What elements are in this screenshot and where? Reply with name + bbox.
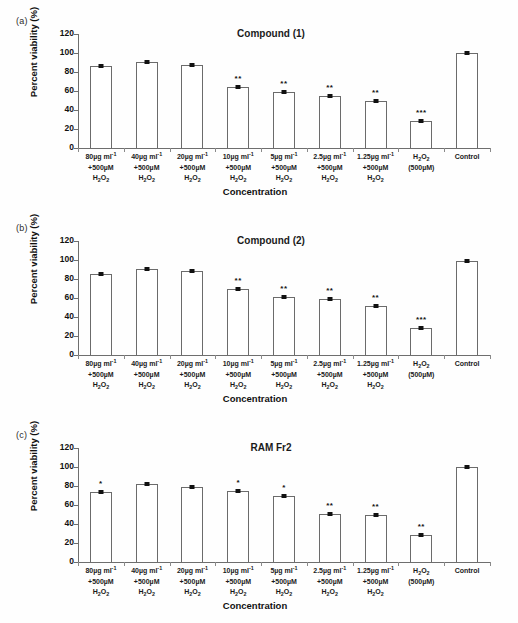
bar[interactable] [181, 271, 203, 355]
bar-slot[interactable] [78, 241, 124, 355]
bar[interactable] [227, 87, 249, 148]
error-bar-marker [373, 304, 378, 308]
error-bar-marker [98, 64, 103, 68]
y-tick-label: 120 [60, 235, 74, 245]
bar-slot[interactable] [124, 34, 170, 148]
bar[interactable] [410, 121, 432, 148]
bar-slot[interactable] [444, 34, 490, 148]
bar[interactable] [319, 514, 341, 562]
bar-slot[interactable]: ** [307, 34, 353, 148]
bar-slot[interactable]: ** [353, 448, 399, 562]
bar[interactable] [136, 62, 158, 148]
bar[interactable] [319, 299, 341, 355]
x-axis-label: Concentration [150, 600, 360, 611]
bar-slot[interactable]: ** [398, 448, 444, 562]
bar-series: ********* [78, 448, 490, 562]
significance-marker: ** [280, 80, 287, 88]
bar[interactable] [456, 467, 478, 562]
error-bar-marker [327, 512, 332, 516]
y-tick-label: 40 [65, 104, 74, 114]
bar[interactable] [273, 297, 295, 355]
bar-slot[interactable]: * [78, 448, 124, 562]
significance-marker: ** [372, 503, 379, 511]
x-axis-line [78, 355, 490, 356]
bar[interactable] [136, 269, 158, 355]
error-bar-marker [144, 267, 149, 271]
y-tick-label: 20 [65, 537, 74, 547]
bar[interactable] [90, 274, 112, 355]
bar-slot[interactable] [124, 241, 170, 355]
x-category-label: 10µg ml-1+500µMH2O2 [215, 566, 261, 598]
bar[interactable] [410, 328, 432, 355]
y-tick-label: 80 [65, 66, 74, 76]
bar-slot[interactable]: *** [398, 241, 444, 355]
error-bar-marker [281, 295, 286, 299]
bar-slot[interactable]: ** [353, 241, 399, 355]
error-bar-marker [236, 489, 241, 493]
bar[interactable] [365, 306, 387, 355]
bar[interactable] [410, 535, 432, 562]
bar[interactable] [181, 487, 203, 562]
bar-slot[interactable]: ** [261, 34, 307, 148]
bar-slot[interactable] [444, 448, 490, 562]
x-category-labels: 80µg ml-1+500µMH2O240µg ml-1+500µMH2O220… [78, 359, 490, 393]
bar[interactable] [456, 53, 478, 148]
bar-slot[interactable]: ** [215, 241, 261, 355]
bar[interactable] [181, 65, 203, 148]
y-tick-label: 100 [60, 461, 74, 471]
bar[interactable] [227, 289, 249, 355]
error-bar-marker [465, 465, 470, 469]
bar[interactable] [136, 484, 158, 562]
bar[interactable] [90, 492, 112, 562]
error-bar-marker [281, 90, 286, 94]
bar[interactable] [456, 261, 478, 355]
x-axis-line [78, 148, 490, 149]
bar-slot[interactable]: ** [215, 34, 261, 148]
bar-slot[interactable]: * [261, 448, 307, 562]
x-category-label: 10µg ml-1+500µMH2O2 [215, 152, 261, 184]
x-category-label: Control [444, 359, 490, 391]
bar-slot[interactable]: * [215, 448, 261, 562]
x-tick [490, 148, 491, 152]
figure-container: (a)Compound (1)Percent viability (%)Conc… [0, 0, 518, 623]
x-tick [490, 355, 491, 359]
error-bar-marker [144, 482, 149, 486]
error-bar-marker [327, 297, 332, 301]
x-category-labels: 80µg ml-1+500µMH2O240µg ml-1+500µMH2O220… [78, 152, 490, 186]
bar[interactable] [273, 92, 295, 148]
bar-slot[interactable]: ** [307, 448, 353, 562]
bar-slot[interactable] [170, 34, 216, 148]
bar-slot[interactable]: ** [353, 34, 399, 148]
x-category-label: 40µg ml-1+500µMH2O2 [124, 359, 170, 391]
significance-marker: *** [416, 316, 427, 324]
bar-slot[interactable]: ** [261, 241, 307, 355]
bar-slot[interactable]: *** [398, 34, 444, 148]
bar[interactable] [273, 496, 295, 562]
error-bar-marker [190, 269, 195, 273]
panel-label: (b) [16, 223, 28, 233]
bar-series: *********** [78, 241, 490, 355]
significance-marker: ** [235, 75, 242, 83]
bar[interactable] [365, 101, 387, 148]
error-bar-marker [190, 63, 195, 67]
error-bar-marker [327, 94, 332, 98]
y-tick-label: 0 [69, 349, 74, 359]
y-tick-label: 60 [65, 499, 74, 509]
bar[interactable] [365, 515, 387, 562]
y-tick-label: 60 [65, 85, 74, 95]
bar-slot[interactable]: ** [307, 241, 353, 355]
bar-slot[interactable] [444, 241, 490, 355]
y-tick-label: 80 [65, 480, 74, 490]
error-bar-marker [98, 490, 103, 494]
bar-slot[interactable] [170, 448, 216, 562]
bar-slot[interactable] [170, 241, 216, 355]
bar[interactable] [90, 66, 112, 148]
bar-slot[interactable] [78, 34, 124, 148]
bar-slot[interactable] [124, 448, 170, 562]
error-bar-marker [98, 272, 103, 276]
y-tick-label: 60 [65, 292, 74, 302]
error-bar-marker [281, 494, 286, 498]
bar[interactable] [227, 491, 249, 562]
bar[interactable] [319, 96, 341, 148]
y-tick-label: 100 [60, 254, 74, 264]
